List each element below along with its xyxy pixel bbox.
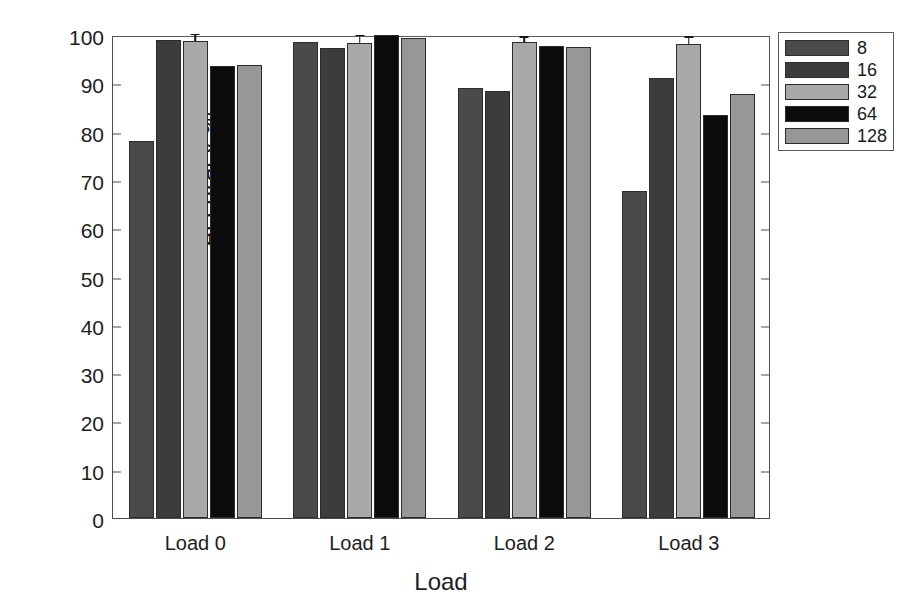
y-tick-label: 20 bbox=[81, 413, 113, 434]
y-tick-mark bbox=[113, 230, 121, 231]
y-tick-label: 80 bbox=[81, 123, 113, 144]
error-bar-cap bbox=[684, 36, 693, 38]
x-tick-label: Load 0 bbox=[165, 532, 226, 555]
bar bbox=[566, 47, 591, 518]
legend-swatch bbox=[785, 106, 849, 122]
bar bbox=[401, 38, 426, 518]
bar-group bbox=[457, 37, 592, 518]
y-tick-label: 60 bbox=[81, 220, 113, 241]
error-bar-cap bbox=[520, 36, 529, 38]
y-tick-mark bbox=[761, 375, 769, 376]
legend-label: 64 bbox=[857, 105, 877, 123]
bar bbox=[703, 115, 728, 518]
bar bbox=[293, 42, 318, 518]
error-bar bbox=[359, 36, 361, 42]
y-tick-mark bbox=[761, 230, 769, 231]
bar-chart-figure: Accuracy % 0102030405060708090100 Load 0… bbox=[0, 0, 900, 606]
legend-item[interactable]: 16 bbox=[785, 60, 887, 79]
y-tick-mark bbox=[113, 423, 121, 424]
legend-label: 8 bbox=[857, 39, 867, 57]
legend-item[interactable]: 128 bbox=[785, 126, 887, 145]
legend-item[interactable]: 64 bbox=[785, 104, 887, 123]
y-tick-label: 90 bbox=[81, 75, 113, 96]
y-tick-mark bbox=[761, 423, 769, 424]
error-bar bbox=[194, 35, 196, 41]
bar-group bbox=[621, 37, 756, 518]
legend-swatch bbox=[785, 128, 849, 144]
bar bbox=[347, 43, 372, 518]
y-tick-label: 40 bbox=[81, 316, 113, 337]
legend-item[interactable]: 32 bbox=[785, 82, 887, 101]
y-tick-mark bbox=[113, 278, 121, 279]
y-tick-mark bbox=[761, 85, 769, 86]
x-tick-label: Load 2 bbox=[494, 532, 555, 555]
y-tick-label: 50 bbox=[81, 268, 113, 289]
bar bbox=[622, 191, 647, 518]
bar bbox=[458, 88, 483, 518]
legend-swatch bbox=[785, 40, 849, 56]
bar bbox=[730, 94, 755, 518]
legend-swatch bbox=[785, 84, 849, 100]
x-axis-title: Load bbox=[113, 568, 769, 596]
y-tick-mark bbox=[113, 471, 121, 472]
y-tick-mark bbox=[761, 326, 769, 327]
bar bbox=[676, 44, 701, 518]
error-bar bbox=[523, 38, 525, 42]
y-tick-mark bbox=[113, 375, 121, 376]
error-bar bbox=[688, 38, 690, 44]
bar bbox=[210, 66, 235, 518]
y-tick-label: 100 bbox=[69, 27, 113, 48]
y-tick-mark bbox=[761, 471, 769, 472]
bar bbox=[183, 41, 208, 518]
error-bar-cap bbox=[355, 35, 364, 37]
y-tick-mark bbox=[761, 181, 769, 182]
legend-label: 128 bbox=[857, 127, 887, 145]
legend-swatch bbox=[785, 62, 849, 78]
legend-item[interactable]: 8 bbox=[785, 38, 887, 57]
bar-group bbox=[292, 37, 427, 518]
bar bbox=[485, 91, 510, 518]
y-tick-label: 30 bbox=[81, 365, 113, 386]
bar bbox=[237, 65, 262, 518]
y-tick-mark bbox=[761, 133, 769, 134]
bar bbox=[374, 35, 399, 518]
bar bbox=[320, 48, 345, 518]
legend-label: 32 bbox=[857, 83, 877, 101]
bar bbox=[129, 141, 154, 518]
y-tick-mark bbox=[113, 85, 121, 86]
y-tick-label: 70 bbox=[81, 171, 113, 192]
bar bbox=[539, 46, 564, 518]
y-tick-mark bbox=[113, 326, 121, 327]
y-tick-mark bbox=[113, 181, 121, 182]
y-tick-label: 10 bbox=[81, 461, 113, 482]
bar bbox=[512, 42, 537, 518]
x-tick-label: Load 3 bbox=[658, 532, 719, 555]
bar-group bbox=[128, 37, 263, 518]
error-bar-cap bbox=[191, 34, 200, 36]
legend[interactable]: 8163264128 bbox=[778, 32, 894, 151]
y-tick-mark bbox=[113, 133, 121, 134]
y-tick-label: 0 bbox=[92, 510, 113, 531]
bar bbox=[156, 40, 181, 518]
y-tick-mark bbox=[761, 278, 769, 279]
legend-label: 16 bbox=[857, 61, 877, 79]
x-tick-label: Load 1 bbox=[329, 532, 390, 555]
plot-area: Accuracy % 0102030405060708090100 Load 0… bbox=[112, 36, 770, 519]
bar bbox=[649, 78, 674, 518]
